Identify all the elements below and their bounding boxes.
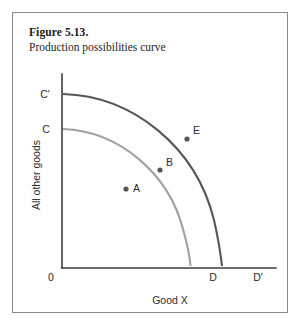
label-y-intercept-C: C bbox=[42, 123, 50, 135]
data-point-E bbox=[184, 136, 189, 141]
x-axis-title: Good X bbox=[152, 294, 188, 306]
label-x-intercept-Dprime: D' bbox=[253, 271, 263, 283]
data-point-B bbox=[157, 167, 162, 172]
label-point-B: B bbox=[166, 156, 173, 168]
figure-container: Figure 5.13. Production possibilities cu… bbox=[0, 0, 305, 330]
label-point-E: E bbox=[193, 124, 200, 136]
production-possibilities-chart: A B E C' C D D' 0 Good X All other goods bbox=[0, 0, 305, 330]
curve-inner-CD bbox=[63, 129, 191, 266]
y-axis-title: All other goods bbox=[30, 140, 42, 210]
label-point-A: A bbox=[133, 182, 140, 194]
label-origin: 0 bbox=[48, 271, 54, 283]
data-point-A bbox=[123, 186, 128, 191]
label-y-intercept-Cprime: C' bbox=[40, 88, 50, 100]
label-x-intercept-D: D bbox=[209, 271, 217, 283]
curve-outer-CprimeDprime bbox=[63, 94, 222, 266]
